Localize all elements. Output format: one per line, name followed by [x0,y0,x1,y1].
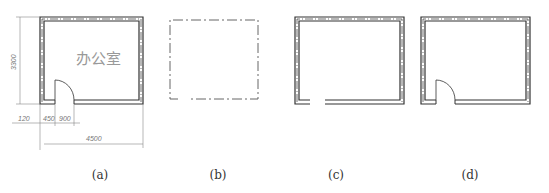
door-swing-icon [55,80,74,100]
caption-b: (b) [198,168,238,182]
dim-height: 3300 [10,54,17,70]
dim-door-pier: 450 [43,115,55,122]
caption-c: (c) [316,168,356,182]
dim-width: 4500 [86,135,102,142]
door-swing-icon [436,80,455,100]
floor-plan-diagram: 办公室 3300 120 450 900 4500 [0,0,549,193]
dim-door-width: 900 [59,115,71,122]
dim-left-offset: 120 [18,115,30,122]
caption-a: (a) [80,168,120,182]
panel-c-plan [295,17,404,104]
caption-d: (d) [450,168,490,182]
room-label: 办公室 [76,50,121,68]
panel-a-dimensions [12,17,143,150]
panel-d-plan [421,17,530,104]
panel-b-plan [170,20,258,99]
